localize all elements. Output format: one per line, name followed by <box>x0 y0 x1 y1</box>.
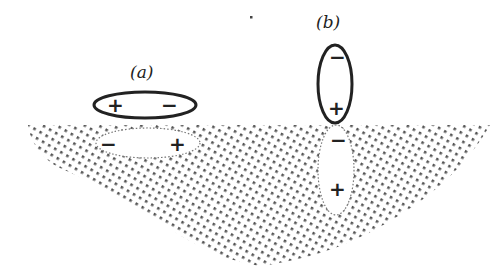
case-b-image-top-sign: − <box>330 128 347 152</box>
case-a-image-right-sign: + <box>169 132 186 156</box>
case-a-label: (a) <box>130 62 153 82</box>
case-a-image-left-sign: − <box>100 132 117 156</box>
case-a-dipole-left-sign: + <box>107 93 124 117</box>
case-b-image-bottom-sign: + <box>329 177 346 201</box>
case-b-dipole-bottom-sign: + <box>328 96 345 120</box>
case-a-dipole-right-sign: − <box>161 93 178 117</box>
case-b-label: (b) <box>316 12 340 32</box>
dipole-image-diagram: (a) + − − + (b) − + − + <box>0 0 503 272</box>
case-b-dipole-top-sign: − <box>329 45 346 69</box>
stray-dot <box>250 16 253 19</box>
